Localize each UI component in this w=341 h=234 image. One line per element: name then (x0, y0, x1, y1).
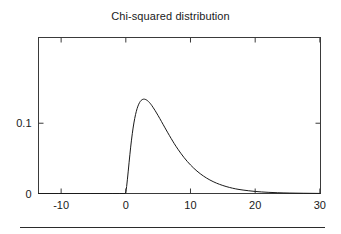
y-axis-ticks (39, 123, 321, 193)
chart-figure: Chi-squared distribution -100102030 00.1 (0, 0, 341, 234)
x-tick-label: -10 (53, 199, 69, 211)
plot-frame (39, 38, 321, 194)
x-axis-tick-labels: -100102030 (53, 199, 326, 211)
y-tick-label: 0 (25, 188, 31, 200)
x-tick-label: 30 (314, 199, 326, 211)
x-axis-ticks (61, 38, 320, 194)
footer-rule (20, 227, 325, 228)
y-tick-label: 0.1 (16, 117, 31, 129)
x-tick-label: 10 (184, 199, 196, 211)
chi-squared-density-curve (39, 99, 320, 193)
x-tick-label: 20 (249, 199, 261, 211)
y-axis-tick-labels: 00.1 (16, 117, 31, 199)
chart-canvas: -100102030 00.1 (0, 0, 341, 234)
x-tick-label: 0 (123, 199, 129, 211)
